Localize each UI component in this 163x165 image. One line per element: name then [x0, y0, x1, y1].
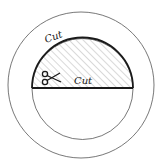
line-cut-label: Cut [74, 75, 93, 86]
cut-diagram: Cut Cut [0, 0, 163, 165]
